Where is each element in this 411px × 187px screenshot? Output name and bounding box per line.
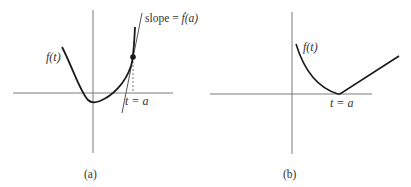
panel-b-function-label: f(t): [303, 40, 318, 54]
panel-b-caption: (b): [283, 168, 297, 181]
panel-a-point-label: t = a: [125, 94, 148, 108]
figure: f(t) slope = ḟ(a) t = a (a) f(t) t = a …: [0, 0, 411, 187]
panel-a-slope-fn: ḟ(a): [182, 11, 199, 25]
panel-a-function-label: f(t): [46, 50, 61, 64]
panel-b-point-label: t = a: [330, 96, 353, 110]
panel-a: f(t) slope = ḟ(a) t = a (a): [13, 10, 198, 181]
panel-a-caption: (a): [84, 168, 97, 181]
panel-a-tangent-point: [130, 54, 136, 60]
panel-a-slope-prefix: slope =: [145, 12, 182, 25]
panel-b: f(t) t = a (b): [210, 12, 399, 181]
panel-a-curve: [62, 27, 135, 102]
panel-a-slope-label: slope = ḟ(a): [145, 11, 198, 25]
